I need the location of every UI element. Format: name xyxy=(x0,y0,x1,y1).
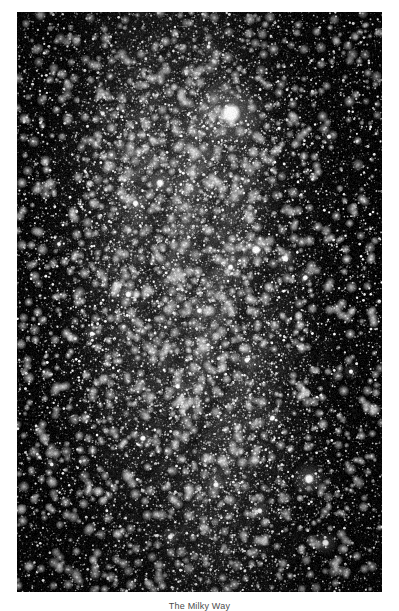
star-field-canvas xyxy=(17,12,382,592)
milky-way-photograph xyxy=(17,12,382,592)
figure-caption: The Milky Way xyxy=(0,601,399,611)
page-canvas: The Milky Way xyxy=(0,0,399,611)
